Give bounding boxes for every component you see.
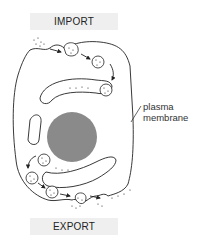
lower-compartment — [42, 157, 116, 188]
nucleus — [47, 112, 97, 162]
left-compartment — [28, 115, 41, 145]
cell-diagram — [0, 0, 199, 245]
